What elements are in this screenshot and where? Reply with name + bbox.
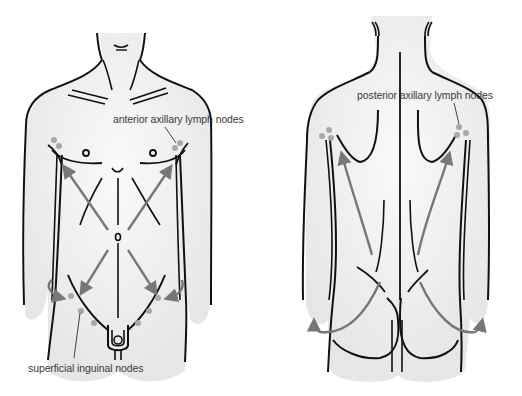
body-drawing — [0, 0, 522, 396]
anterior-axillary-lymph-nodes-label: anterior axillary lymph nodes — [113, 113, 244, 125]
superficial-inguinal-nodes-label: superficial inguinal nodes — [28, 362, 143, 374]
lymph-drainage-figure: anterior axillary lymph nodes superficia… — [0, 0, 522, 396]
anterior-view — [23, 33, 211, 381]
posterior-view — [303, 16, 490, 382]
posterior-axillary-lymph-nodes-label: posterior axillary lymph nodes — [357, 89, 493, 101]
